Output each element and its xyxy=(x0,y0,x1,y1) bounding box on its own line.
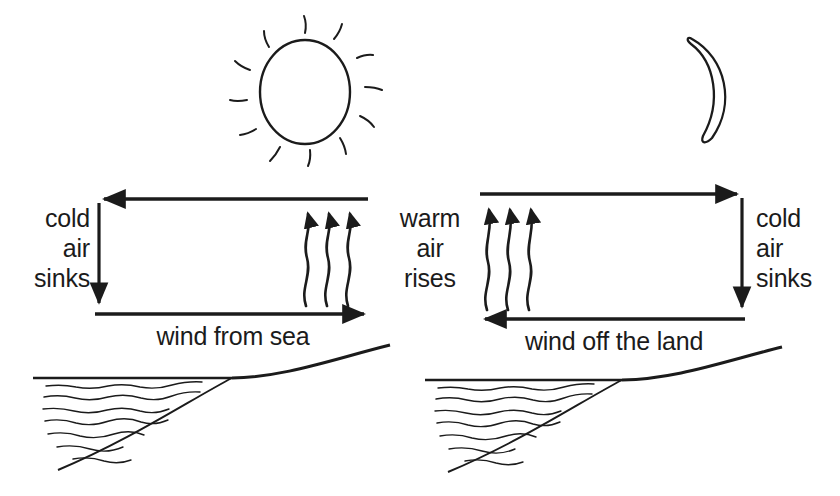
label-warm-air-rises: warm air rises xyxy=(382,203,478,293)
label-line-2: air xyxy=(756,233,836,263)
label-cold-air-sinks-left: cold air sinks xyxy=(10,203,90,293)
label-line-3: rises xyxy=(382,263,478,293)
label-cold-air-sinks-right: cold air sinks xyxy=(756,203,836,293)
label-line-3: sinks xyxy=(10,263,90,293)
moon-icon xyxy=(688,38,725,142)
label-line-1: cold xyxy=(10,203,90,233)
left-landscape xyxy=(33,345,390,470)
water-hatching-right xyxy=(435,384,594,465)
sun-icon xyxy=(230,16,382,166)
label-wind-from-sea: wind from sea xyxy=(88,321,378,351)
label-line-2: air xyxy=(382,233,478,263)
label-line-1: warm xyxy=(382,203,478,233)
water-hatching-left xyxy=(43,382,202,463)
label-line-1: cold xyxy=(756,203,836,233)
left-circulation-arrows xyxy=(95,199,368,314)
diagram-canvas: cold air sinks warm air rises cold air s… xyxy=(0,0,840,496)
label-line-3: sinks xyxy=(756,263,836,293)
right-landscape xyxy=(425,347,782,472)
label-line-2: air xyxy=(10,233,90,263)
label-wind-off-the-land: wind off the land xyxy=(478,326,750,356)
convection-arrows-left-panel xyxy=(304,214,351,306)
convection-arrows-right-panel xyxy=(485,210,532,310)
right-circulation-arrows xyxy=(480,194,745,319)
